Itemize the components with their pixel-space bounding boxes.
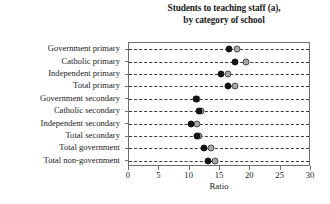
y-axis-tick: [125, 98, 129, 99]
y-axis-label: Catholic primary: [62, 56, 120, 65]
data-point-2018: [232, 58, 239, 65]
y-axis-label: Total non-government: [44, 155, 120, 164]
data-point-2018: [201, 145, 208, 152]
y-axis-tick: [125, 123, 129, 124]
data-point-2008: [224, 71, 231, 78]
y-axis-label: Total secondary: [65, 131, 120, 140]
y-axis-tick: [125, 86, 129, 87]
data-point-2018: [224, 83, 231, 90]
y-axis-tick: [125, 74, 129, 75]
gridline: [129, 111, 309, 112]
gridline: [129, 99, 309, 100]
x-axis-tick-label: 15: [215, 170, 224, 180]
y-axis-label: Total government: [59, 143, 120, 152]
y-axis-tick: [125, 136, 129, 137]
y-axis-tick: [125, 111, 129, 112]
y-axis-tick: [125, 49, 129, 50]
gridline: [129, 124, 309, 125]
x-axis-tick-label: 30: [306, 170, 315, 180]
x-axis: Ratio 051015202530: [128, 166, 310, 196]
data-point-2008: [212, 157, 219, 164]
x-axis-tick-label: 10: [184, 170, 193, 180]
data-point-2018: [193, 133, 200, 140]
chart-title-line-2: by category of school: [118, 15, 330, 27]
gridline: [129, 148, 309, 149]
gridline: [129, 62, 309, 63]
data-point-2008: [243, 58, 250, 65]
x-axis-title: Ratio: [128, 181, 310, 191]
chart-container: Students to teaching staff (a), by categ…: [0, 0, 330, 204]
plot-inner: [129, 43, 309, 165]
y-axis-label: Total primary: [73, 81, 120, 90]
plot-area: 20082018: [128, 42, 310, 166]
data-point-2018: [204, 157, 211, 164]
gridline: [129, 49, 309, 50]
data-point-2018: [196, 108, 203, 115]
data-point-2008: [207, 145, 214, 152]
data-point-2008: [231, 83, 238, 90]
gridline: [129, 136, 309, 137]
y-axis-tick: [125, 61, 129, 62]
chart-title: Students to teaching staff (a), by categ…: [118, 3, 330, 26]
x-axis-tick-label: 25: [275, 170, 284, 180]
y-axis-label: Independent secondary: [41, 118, 120, 127]
data-point-2018: [192, 95, 199, 102]
x-axis-tick-label: 20: [245, 170, 254, 180]
data-point-2008: [193, 120, 200, 127]
y-axis-label: Catholic secondary: [54, 106, 120, 115]
data-point-2018: [226, 46, 233, 53]
y-axis-label: Independent primary: [48, 69, 120, 78]
x-axis-tick-label: 5: [156, 170, 160, 180]
y-axis-tick: [125, 148, 129, 149]
chart-title-line-1: Students to teaching staff (a),: [118, 3, 330, 15]
data-point-2018: [187, 120, 194, 127]
data-point-2018: [218, 71, 225, 78]
y-axis-tick: [125, 160, 129, 161]
y-axis-label: Government primary: [48, 44, 120, 53]
y-axis-labels: Government primaryCatholic primaryIndepe…: [0, 42, 124, 166]
x-axis-tick-label: 0: [126, 170, 130, 180]
gridline: [129, 86, 309, 87]
data-point-2008: [233, 46, 240, 53]
y-axis-label: Government secondary: [40, 93, 120, 102]
gridline: [129, 161, 309, 162]
